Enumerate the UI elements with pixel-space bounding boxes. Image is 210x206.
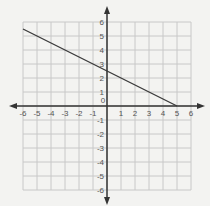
x-tick-label: -6 [19,109,27,118]
x-tick-label: -3 [61,109,69,118]
y-tick-label: -3 [97,144,105,153]
y-tick-label: -6 [97,186,105,195]
y-tick-label: -4 [97,158,105,167]
x-axis-left-arrow-icon [9,103,17,109]
x-tick-label: 4 [161,109,166,118]
y-tick-label: -1 [97,116,105,125]
x-tick-label: 0 [101,96,106,105]
x-tick-label: 3 [147,109,152,118]
x-tick-label: 1 [119,109,124,118]
y-axis-up-arrow-icon [104,6,110,14]
x-tick-label: 2 [133,109,138,118]
x-tick-label: -5 [33,109,41,118]
x-axis-right-arrow-icon [197,103,205,109]
coordinate-plane: -6-5-4-3-2-10123456-6-5-4-3-2-1123456 [0,0,210,206]
x-tick-label: 5 [175,109,180,118]
y-tick-label: 1 [100,88,105,97]
y-tick-label: 4 [100,46,105,55]
y-tick-label: 2 [100,74,105,83]
x-tick-label: -2 [75,109,83,118]
y-tick-label: 6 [100,18,105,27]
y-tick-label: -5 [97,172,105,181]
x-tick-label: 6 [189,109,194,118]
y-tick-label: 5 [100,32,105,41]
y-axis-down-arrow-icon [104,197,110,205]
y-tick-label: -2 [97,130,105,139]
x-tick-label: -4 [47,109,55,118]
